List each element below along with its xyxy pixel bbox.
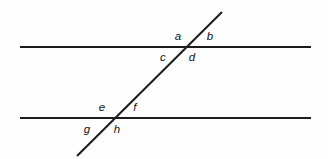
angle-label-e: e [99,102,106,114]
angle-label-f: f [133,102,136,114]
angle-label-c: c [160,52,166,64]
diagram-canvas [0,0,328,159]
transversal-line [77,12,222,156]
angle-label-h: h [114,124,121,136]
angle-label-b: b [207,31,214,43]
angle-label-g: g [84,124,91,136]
angle-label-d: d [189,52,196,64]
angle-label-a: a [175,31,182,43]
geometry-diagram: a b c d e f g h [0,0,328,159]
